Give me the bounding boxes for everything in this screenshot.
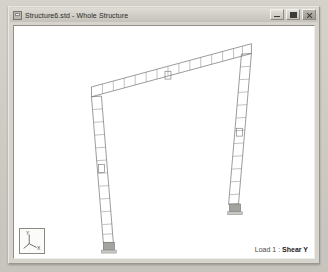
document-window-icon	[13, 11, 22, 20]
beam-shear-hatch	[102, 46, 242, 94]
status-result-text: Load 1 : Shear Y	[255, 245, 308, 254]
mdi-child-window[interactable]: Structure6.std - Whole Structure	[8, 6, 320, 264]
window-controls	[270, 9, 316, 20]
member-label-group	[98, 71, 242, 172]
screenshot-root: Structure6.std - Whole Structure	[0, 0, 328, 272]
status-result-label: Shear Y	[282, 246, 308, 253]
maximize-button[interactable]	[286, 9, 300, 20]
member-beam	[91, 44, 251, 97]
model-view-client-area[interactable]: Y X Load 1 : Shear Y	[13, 25, 315, 259]
right-column-shear-hatch	[229, 66, 250, 194]
support-right	[228, 204, 243, 215]
left-column-shear-hatch	[93, 109, 113, 235]
minimize-button[interactable]	[270, 9, 284, 20]
member-left-column	[91, 96, 113, 243]
close-button[interactable]	[302, 9, 316, 20]
support-left	[101, 242, 116, 253]
axis-triad-glyph: Y X	[20, 229, 44, 253]
axis-label-y: Y	[26, 230, 30, 236]
window-title: Structure6.std - Whole Structure	[25, 11, 128, 20]
status-load-label: Load 1 :	[255, 246, 280, 253]
window-title-bar[interactable]: Structure6.std - Whole Structure	[10, 8, 318, 22]
structure-drawing[interactable]	[14, 26, 314, 258]
axis-label-x: X	[37, 245, 41, 251]
axis-triad: Y X	[19, 228, 45, 254]
